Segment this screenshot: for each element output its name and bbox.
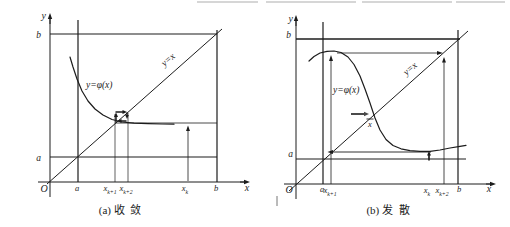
tick-x-k1: xk+1	[322, 185, 336, 197]
y-axis-label: y	[41, 10, 47, 21]
cobweb-arrow-up-head	[114, 113, 118, 118]
arrow-right-at-fixed-point-head	[364, 112, 369, 116]
x-axis-label: x	[244, 182, 250, 193]
figure-page: yxObay=φ(x)y=xaxk+1xk+2xkbyxObay=φ(x)y=x…	[0, 0, 510, 227]
tick-x-k1: xk+1	[102, 183, 116, 195]
tick-x-k2: xk+2	[434, 185, 448, 197]
caption-convergence: (a) 收 敛	[50, 201, 190, 217]
diagonal-y-equals-x	[47, 29, 222, 184]
y-axis-arrowhead-head	[294, 15, 298, 21]
curve-equation-label: y=φ(x)	[85, 80, 112, 91]
arrow-left-low-level-head	[328, 150, 334, 154]
panel-a: yxObay=φ(x)y=xaxk+1xk+2xkb	[36, 10, 250, 197]
arrow-up-at-xk1-head	[329, 55, 333, 61]
y-axis-label: y	[288, 13, 294, 24]
tick-b: b	[214, 183, 218, 193]
curve-phi-of-x	[309, 51, 466, 151]
arrow-up-at-xk2-head	[442, 57, 446, 63]
x-axis-label: x	[486, 183, 492, 194]
fixed-point-label: x	[367, 119, 372, 129]
curve-equation-label: y=φ(x)	[332, 85, 359, 96]
origin-label: O	[285, 184, 292, 195]
tick-x-k: xk	[181, 183, 189, 195]
curve-phi-of-x	[70, 57, 174, 124]
tick-a: a	[75, 183, 79, 193]
tick-b: b	[457, 184, 461, 194]
figure-canvas: yxObay=φ(x)y=xaxk+1xk+2xkbyxObay=φ(x)y=x…	[0, 0, 510, 227]
origin-label: O	[40, 183, 47, 194]
caption-divergence: (b) 发 散	[318, 201, 458, 217]
diagonal-equation-label: y=x	[400, 60, 419, 78]
tick-x-k: xk	[423, 185, 431, 197]
diagonal-equation-label: y=x	[158, 51, 177, 69]
b-value-label: b	[36, 30, 41, 40]
tick-x-k2: xk+2	[118, 183, 132, 195]
y-axis-arrowhead-head	[48, 13, 52, 19]
a-value-label: a	[288, 149, 293, 159]
panel-b: yxObay=φ(x)y=xxaxk+1xkxk+2b	[284, 13, 496, 199]
b-value-label: b	[286, 30, 291, 40]
a-value-label: a	[36, 153, 41, 163]
arrow-up-at-xk-head	[186, 126, 190, 132]
scan-artifacts	[197, 2, 505, 206]
